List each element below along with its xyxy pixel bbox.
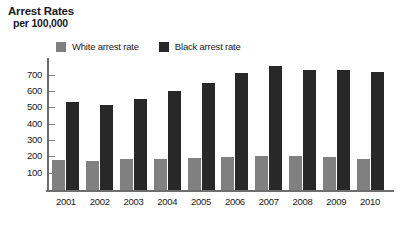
y-axis-tick-label: 600 [27,85,42,96]
bar-group [319,61,353,190]
y-axis-tick-label: 300 [27,134,42,145]
bar-black-2007 [269,66,282,190]
bar-group [184,61,218,190]
bar-group [218,61,252,190]
x-axis-tick-label: 2009 [319,196,353,207]
bar-black-2009 [337,70,350,190]
bar-group [150,61,184,190]
x-axis-line [46,190,394,192]
x-axis-tick-label: 2007 [252,196,286,207]
bar-white-2001 [52,160,65,190]
x-axis-tick-label: 2002 [83,196,117,207]
bars-layer [49,61,387,190]
bar-group [353,61,387,190]
bar-white-2004 [154,159,167,191]
arrest-rates-bar-chart: Arrest Rates per 100,000 White arrest ra… [0,0,405,229]
bar-white-2009 [323,157,336,190]
x-axis-tick-label: 2010 [353,196,387,207]
legend-item-black-arrest-rate: Black arrest rate [159,41,241,52]
bar-white-2006 [221,157,234,190]
bar-group [117,61,151,190]
bar-white-2005 [188,158,201,190]
x-axis-tick-label: 2008 [286,196,320,207]
bar-white-2002 [86,161,99,190]
bar-white-2008 [289,156,302,190]
x-axis-tick-label: 2001 [49,196,83,207]
bar-white-2010 [357,159,370,191]
x-axis-tick-label: 2003 [117,196,151,207]
x-axis-tick-label: 2006 [218,196,252,207]
x-axis: 2001200220032004200520062007200820092010 [49,196,389,212]
x-axis-tick-label: 2004 [150,196,184,207]
bar-black-2002 [100,105,113,190]
bar-white-2007 [255,156,268,190]
bar-black-2001 [66,102,79,190]
y-axis-tick-label: 200 [27,150,42,161]
y-axis-tick-label: 500 [27,101,42,112]
bar-black-2003 [134,99,147,190]
plot-area: 100200300400500600700 [47,61,387,190]
legend-swatch-icon [159,42,169,52]
chart-title-line-1: Arrest Rates [8,5,74,17]
x-axis-tick-label: 2005 [184,196,218,207]
bar-group [286,61,320,190]
bar-black-2008 [303,70,316,190]
bar-group [252,61,286,190]
y-axis-tick-label: 400 [27,118,42,129]
bar-black-2010 [371,72,384,190]
y-axis-tick-label: 700 [27,69,42,80]
bar-group [49,61,83,190]
legend-swatch-icon [56,42,66,52]
chart-legend: White arrest rate Black arrest rate [56,41,241,52]
chart-title: Arrest Rates per 100,000 [8,5,74,29]
bar-black-2006 [235,73,248,190]
legend-label-black-arrest-rate: Black arrest rate [175,41,241,52]
bar-black-2005 [202,83,215,190]
bar-white-2003 [120,159,133,190]
legend-item-white-arrest-rate: White arrest rate [56,41,139,52]
chart-title-line-2: per 100,000 [8,17,74,29]
bar-group [83,61,117,190]
bar-black-2004 [168,91,181,190]
legend-label-white-arrest-rate: White arrest rate [72,41,139,52]
y-axis-tick-label: 100 [27,167,42,178]
